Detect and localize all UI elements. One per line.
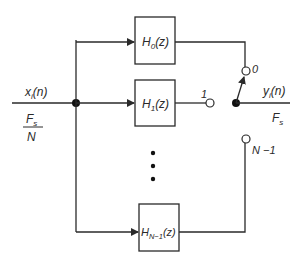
ellipsis-dot <box>151 177 155 181</box>
output-signal-label: yi(n) <box>262 84 285 100</box>
commutator-arm <box>236 77 244 103</box>
filter-h0-label: H0(z) <box>142 35 169 51</box>
filter-h1-label: H1(z) <box>142 97 169 113</box>
contact-1-label: 1 <box>201 88 207 100</box>
input-signal-label: xi(n) <box>24 85 47 101</box>
ellipsis-dot <box>151 164 155 168</box>
contact-n-1-label: N −1 <box>252 144 276 156</box>
contact-n-1 <box>242 135 250 143</box>
output-hn-1-line <box>179 142 245 232</box>
output-h0-line <box>175 42 245 68</box>
contact-0-label: 0 <box>252 63 259 75</box>
ellipsis-dot <box>151 151 155 155</box>
input-rate-denominator: N <box>27 130 36 144</box>
output-rate-label: Fs <box>272 111 283 127</box>
filter-bank-diagram: H0(z) H1(z) HN−1(z) 0 1 N −1 xi(n) Fs N … <box>0 0 300 265</box>
contact-0 <box>242 67 250 75</box>
input-rate-numerator: Fs <box>26 112 37 128</box>
contact-1 <box>206 99 214 107</box>
